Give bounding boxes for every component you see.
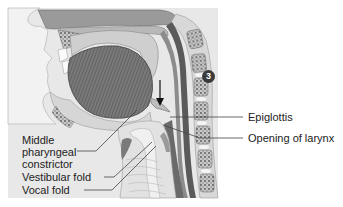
label-line-1: Middle	[22, 134, 76, 146]
label-vestibular-fold: Vestibular fold	[22, 171, 91, 183]
label-opening-of-larynx: Opening of larynx	[248, 132, 334, 144]
label-epiglottis: Epiglottis	[248, 111, 293, 123]
anatomy-figure: 3 Epiglottis Opening of larynx Middle ph…	[0, 0, 343, 207]
label-vocal-fold: Vocal fold	[22, 184, 70, 196]
label-middle-pharyngeal-constrictor: Middle pharyngeal constrictor	[22, 134, 76, 170]
label-line-2: pharyngeal	[22, 146, 76, 158]
label-line-3: constrictor	[22, 158, 76, 170]
step-number-badge: 3	[202, 70, 215, 83]
